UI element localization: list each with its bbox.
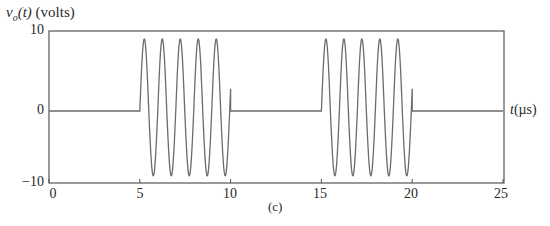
x-tick-label: 15 — [305, 186, 335, 202]
y-axis-label: vo(t) (volts) — [6, 4, 75, 23]
x-tick-label: 25 — [486, 186, 516, 202]
signal-line — [49, 39, 503, 176]
figure-caption: (c) — [268, 199, 282, 215]
x-axis-ticks — [49, 179, 503, 183]
x-tick-label: 0 — [38, 186, 68, 202]
y-label-unit: (volts) — [32, 4, 75, 20]
plot-area — [0, 0, 550, 226]
x-tick-label: 5 — [125, 186, 155, 202]
y-tick-label: 10 — [10, 22, 44, 38]
x-label-unit: (µs) — [514, 102, 537, 117]
y-label-arg: (t) — [18, 4, 32, 20]
y-label-var: v — [6, 4, 13, 20]
x-axis-label: t(µs) — [510, 102, 537, 118]
y-tick-label: 0 — [10, 102, 44, 118]
x-tick-label: 10 — [215, 186, 245, 202]
x-tick-label: 20 — [396, 186, 426, 202]
plot-frame — [49, 31, 504, 183]
